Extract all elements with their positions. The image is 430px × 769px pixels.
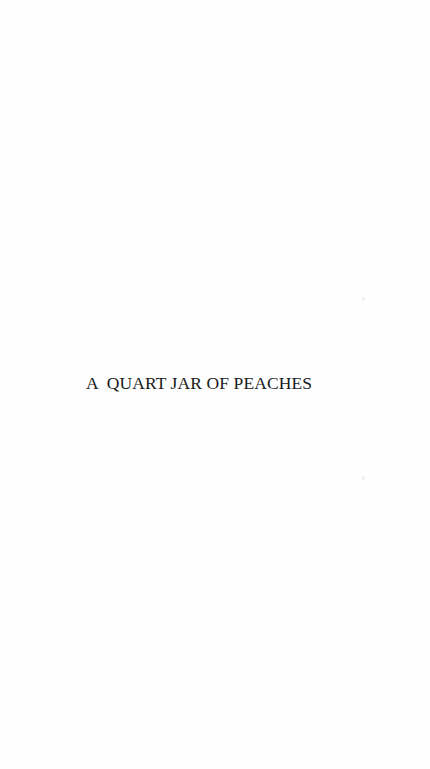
book-page: A QUART JAR OF PEACHES [0,0,430,769]
scan-artifact [362,297,365,301]
half-title: A QUART JAR OF PEACHES [86,373,312,393]
scan-artifact [362,476,365,480]
